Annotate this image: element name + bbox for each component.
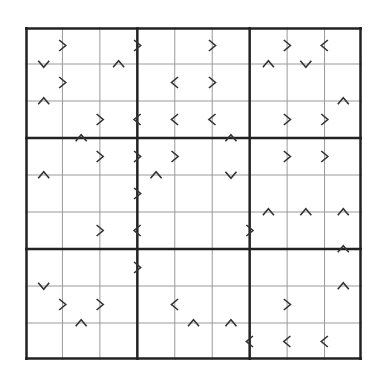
sudoku-cell-r4-c6[interactable] bbox=[250, 175, 287, 212]
sudoku-cell-r6-c8[interactable] bbox=[325, 249, 362, 286]
sudoku-cell-r3-c0[interactable] bbox=[25, 138, 62, 175]
sudoku-cell-r3-c6[interactable] bbox=[250, 138, 287, 175]
sudoku-cell-r7-c3[interactable] bbox=[137, 286, 174, 323]
sudoku-cell-r4-c8[interactable] bbox=[325, 175, 362, 212]
sudoku-cell-r5-c7[interactable] bbox=[287, 212, 324, 249]
sudoku-cell-r2-c3[interactable] bbox=[137, 101, 174, 138]
sudoku-cell-r5-c6[interactable] bbox=[250, 212, 287, 249]
sudoku-cell-r6-c3[interactable] bbox=[137, 249, 174, 286]
sudoku-cell-r5-c8[interactable] bbox=[325, 212, 362, 249]
sudoku-cell-r7-c0[interactable] bbox=[25, 286, 62, 323]
sudoku-cell-r6-c0[interactable] bbox=[25, 249, 62, 286]
sudoku-cell-r6-c7[interactable] bbox=[287, 249, 324, 286]
sudoku-cell-r7-c5[interactable] bbox=[212, 286, 249, 323]
sudoku-cell-r3-c5[interactable] bbox=[212, 138, 249, 175]
sudoku-cell-r2-c2[interactable] bbox=[100, 101, 137, 138]
sudoku-cell-r2-c7[interactable] bbox=[287, 101, 324, 138]
sudoku-cell-r8-c8[interactable] bbox=[325, 323, 362, 360]
sudoku-cell-r0-c5[interactable] bbox=[212, 27, 249, 64]
sudoku-cell-r0-c1[interactable] bbox=[62, 27, 99, 64]
sudoku-cell-r7-c2[interactable] bbox=[100, 286, 137, 323]
sudoku-cell-r8-c7[interactable] bbox=[287, 323, 324, 360]
sudoku-cell-r0-c3[interactable] bbox=[137, 27, 174, 64]
sudoku-cell-r7-c7[interactable] bbox=[287, 286, 324, 323]
sudoku-cell-r4-c4[interactable] bbox=[175, 175, 212, 212]
sudoku-cell-r3-c8[interactable] bbox=[325, 138, 362, 175]
sudoku-cell-r2-c4[interactable] bbox=[175, 101, 212, 138]
sudoku-cell-r6-c6[interactable] bbox=[250, 249, 287, 286]
sudoku-cell-r0-c2[interactable] bbox=[100, 27, 137, 64]
sudoku-cell-r4-c5[interactable] bbox=[212, 175, 249, 212]
sudoku-cell-r2-c0[interactable] bbox=[25, 101, 62, 138]
sudoku-cell-r8-c3[interactable] bbox=[137, 323, 174, 360]
sudoku-cell-r1-c8[interactable] bbox=[325, 64, 362, 101]
sudoku-board bbox=[25, 27, 362, 360]
sudoku-cell-r0-c4[interactable] bbox=[175, 27, 212, 64]
sudoku-cell-r2-c1[interactable] bbox=[62, 101, 99, 138]
sudoku-cell-r1-c4[interactable] bbox=[175, 64, 212, 101]
sudoku-cell-r6-c4[interactable] bbox=[175, 249, 212, 286]
sudoku-cell-r8-c1[interactable] bbox=[62, 323, 99, 360]
sudoku-cell-r8-c0[interactable] bbox=[25, 323, 62, 360]
sudoku-cell-r8-c6[interactable] bbox=[250, 323, 287, 360]
sudoku-cell-r8-c4[interactable] bbox=[175, 323, 212, 360]
sudoku-cell-r5-c3[interactable] bbox=[137, 212, 174, 249]
sudoku-cell-r1-c5[interactable] bbox=[212, 64, 249, 101]
sudoku-cell-r1-c7[interactable] bbox=[287, 64, 324, 101]
sudoku-cell-r0-c6[interactable] bbox=[250, 27, 287, 64]
sudoku-cell-r5-c5[interactable] bbox=[212, 212, 249, 249]
sudoku-cell-r8-c5[interactable] bbox=[212, 323, 249, 360]
sudoku-cell-r3-c7[interactable] bbox=[287, 138, 324, 175]
sudoku-cell-r4-c2[interactable] bbox=[100, 175, 137, 212]
sudoku-cell-r5-c1[interactable] bbox=[62, 212, 99, 249]
sudoku-cell-r3-c1[interactable] bbox=[62, 138, 99, 175]
sudoku-cell-r2-c8[interactable] bbox=[325, 101, 362, 138]
sudoku-cell-r1-c6[interactable] bbox=[250, 64, 287, 101]
sudoku-cell-r6-c5[interactable] bbox=[212, 249, 249, 286]
sudoku-cell-r4-c3[interactable] bbox=[137, 175, 174, 212]
sudoku-cell-r6-c2[interactable] bbox=[100, 249, 137, 286]
sudoku-cell-r0-c7[interactable] bbox=[287, 27, 324, 64]
sudoku-cell-r3-c4[interactable] bbox=[175, 138, 212, 175]
sudoku-cell-r5-c4[interactable] bbox=[175, 212, 212, 249]
sudoku-cell-r1-c2[interactable] bbox=[100, 64, 137, 101]
sudoku-cell-r2-c6[interactable] bbox=[250, 101, 287, 138]
sudoku-cell-r3-c2[interactable] bbox=[100, 138, 137, 175]
sudoku-cell-r7-c6[interactable] bbox=[250, 286, 287, 323]
sudoku-cell-r4-c1[interactable] bbox=[62, 175, 99, 212]
sudoku-cell-r7-c1[interactable] bbox=[62, 286, 99, 323]
sudoku-cell-r1-c3[interactable] bbox=[137, 64, 174, 101]
sudoku-cell-r3-c3[interactable] bbox=[137, 138, 174, 175]
sudoku-cell-r7-c4[interactable] bbox=[175, 286, 212, 323]
sudoku-cell-r5-c0[interactable] bbox=[25, 212, 62, 249]
sudoku-cell-r4-c0[interactable] bbox=[25, 175, 62, 212]
sudoku-cell-r5-c2[interactable] bbox=[100, 212, 137, 249]
sudoku-cell-r7-c8[interactable] bbox=[325, 286, 362, 323]
sudoku-cell-r0-c8[interactable] bbox=[325, 27, 362, 64]
sudoku-cell-r1-c0[interactable] bbox=[25, 64, 62, 101]
sudoku-cell-r2-c5[interactable] bbox=[212, 101, 249, 138]
sudoku-cell-r0-c0[interactable] bbox=[25, 27, 62, 64]
sudoku-cell-r1-c1[interactable] bbox=[62, 64, 99, 101]
sudoku-cell-r8-c2[interactable] bbox=[100, 323, 137, 360]
sudoku-cell-r4-c7[interactable] bbox=[287, 175, 324, 212]
sudoku-cell-r6-c1[interactable] bbox=[62, 249, 99, 286]
